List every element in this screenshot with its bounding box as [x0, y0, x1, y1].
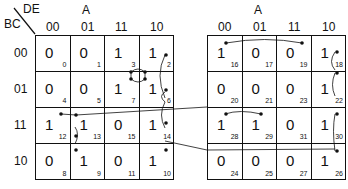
- kmap-cell: 17: [105, 72, 140, 108]
- cell-value: 0: [45, 44, 53, 61]
- minterm-index: 16: [231, 61, 239, 68]
- minterm-index: 22: [335, 97, 343, 104]
- col-header: 00: [46, 20, 59, 34]
- minterm-index: 14: [163, 133, 171, 140]
- cell-value: 1: [80, 116, 88, 133]
- cell-value: 0: [114, 116, 122, 133]
- kmap-cell: 122: [312, 72, 347, 108]
- kmap-cell: 128: [208, 108, 243, 144]
- kmap-cell: 19: [71, 144, 106, 180]
- minterm-index: 31: [300, 133, 308, 140]
- kmap-cell: 019: [277, 36, 312, 72]
- cell-value: 0: [114, 152, 122, 169]
- minterm-index: 2: [167, 61, 171, 68]
- cell-value: 1: [149, 152, 157, 169]
- kmap-cell: 00: [36, 36, 71, 72]
- col-header: 01: [253, 20, 266, 34]
- kmap-cell: 025: [243, 144, 278, 180]
- cell-value: 0: [45, 152, 53, 169]
- kmap-cell: 13: [105, 36, 140, 72]
- col-header: 11: [288, 20, 300, 34]
- kmap-cell: 126: [312, 144, 347, 180]
- cell-value: 0: [252, 44, 260, 61]
- kmap-cell: 116: [208, 36, 243, 72]
- cell-value: 1: [149, 80, 157, 97]
- cell-value: 1: [321, 80, 329, 97]
- minterm-index: 28: [231, 133, 239, 140]
- kmap-cell: 031: [277, 108, 312, 144]
- cell-value: 1: [321, 152, 329, 169]
- kmap-cell: 130: [312, 108, 347, 144]
- kmap-cell: 16: [140, 72, 175, 108]
- minterm-index: 21: [265, 97, 273, 104]
- row-var-label: BC: [4, 17, 21, 31]
- kmap-cell: 110: [140, 144, 175, 180]
- kmap-cell: 023: [277, 72, 312, 108]
- row-header: 00: [14, 46, 27, 60]
- cell-value: 1: [149, 44, 157, 61]
- minterm-index: 25: [265, 170, 273, 177]
- cell-value: 1: [114, 80, 122, 97]
- kmap-cell: 129: [243, 108, 278, 144]
- minterm-index: 29: [265, 133, 273, 140]
- minterm-index: 7: [132, 97, 136, 104]
- minterm-index: 11: [128, 170, 135, 177]
- cell-value: 0: [217, 80, 225, 97]
- kmap-cell: 04: [36, 72, 71, 108]
- kmap-a1: 1160170191180200210231221281290311300240…: [207, 35, 346, 180]
- cell-value: 0: [252, 152, 260, 169]
- col-var-label: DE: [23, 2, 40, 16]
- cell-value: 0: [286, 80, 294, 97]
- minterm-index: 12: [59, 133, 67, 140]
- minterm-index: 17: [265, 61, 273, 68]
- minterm-index: 0: [63, 61, 67, 68]
- kmap-cell: 011: [105, 144, 140, 180]
- kmap-cell: 05: [71, 72, 106, 108]
- minterm-index: 24: [231, 170, 239, 177]
- col-header: 11: [115, 20, 127, 34]
- kmap-cell: 113: [71, 108, 106, 144]
- col-header: 01: [81, 20, 94, 34]
- kmap-cell: 118: [312, 36, 347, 72]
- col-header: 00: [218, 20, 231, 34]
- minterm-index: 5: [97, 97, 101, 104]
- kmap-cell: 112: [36, 108, 71, 144]
- cell-value: 1: [45, 116, 53, 133]
- minterm-index: 23: [300, 97, 308, 104]
- map-var-label-right: A: [254, 3, 262, 17]
- kmap-cell: 027: [277, 144, 312, 180]
- minterm-index: 30: [335, 133, 343, 140]
- minterm-index: 18: [335, 61, 343, 68]
- cell-value: 0: [252, 80, 260, 97]
- minterm-index: 20: [231, 97, 239, 104]
- cell-value: 1: [149, 116, 157, 133]
- kmap-cell: 015: [105, 108, 140, 144]
- map-var-label-left: A: [82, 3, 90, 17]
- minterm-index: 15: [128, 133, 136, 140]
- cell-value: 0: [80, 44, 88, 61]
- cell-value: 1: [321, 44, 329, 61]
- minterm-index: 10: [163, 170, 171, 177]
- cell-value: 1: [217, 116, 225, 133]
- cell-value: 0: [45, 80, 53, 97]
- cell-value: 1: [321, 116, 329, 133]
- row-header: 01: [14, 82, 27, 96]
- kmap-cell: 08: [36, 144, 71, 180]
- minterm-index: 26: [335, 170, 343, 177]
- kmap-a0: 00011312040517161121130151140819011110: [35, 35, 174, 180]
- minterm-index: 9: [97, 170, 101, 177]
- cell-value: 0: [217, 152, 225, 169]
- kmap-cell: 024: [208, 144, 243, 180]
- kmap-cell: 020: [208, 72, 243, 108]
- cell-value: 0: [286, 152, 294, 169]
- cell-value: 0: [286, 116, 294, 133]
- minterm-index: 3: [132, 61, 136, 68]
- cell-value: 1: [114, 44, 122, 61]
- kmap-cell: 017: [243, 36, 278, 72]
- cell-value: 1: [217, 44, 225, 61]
- minterm-index: 8: [63, 170, 67, 177]
- kmap-cell: 12: [140, 36, 175, 72]
- col-header: 10: [150, 20, 163, 34]
- minterm-index: 19: [300, 61, 308, 68]
- minterm-index: 27: [300, 170, 308, 177]
